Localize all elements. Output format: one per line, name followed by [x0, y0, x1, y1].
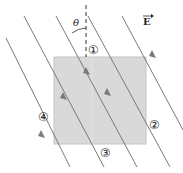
diagram-canvas [0, 0, 183, 173]
square-region [54, 57, 146, 144]
surface-label-1: ① [88, 43, 99, 57]
field-label: E [143, 16, 151, 27]
surface-label-2: ② [149, 118, 160, 132]
surface-label-3: ③ [100, 146, 111, 160]
theta-arc [72, 28, 86, 33]
surface-label-4: ④ [38, 110, 49, 124]
theta-label: θ [73, 17, 79, 28]
